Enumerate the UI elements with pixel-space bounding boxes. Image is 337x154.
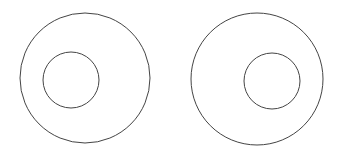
right-figure xyxy=(191,13,323,145)
right-inner-circle xyxy=(244,53,300,109)
left-figure xyxy=(20,13,150,143)
left-outer-circle xyxy=(20,13,150,143)
diagram-canvas xyxy=(0,0,337,154)
left-inner-circle xyxy=(43,52,99,108)
right-outer-circle xyxy=(191,13,323,145)
